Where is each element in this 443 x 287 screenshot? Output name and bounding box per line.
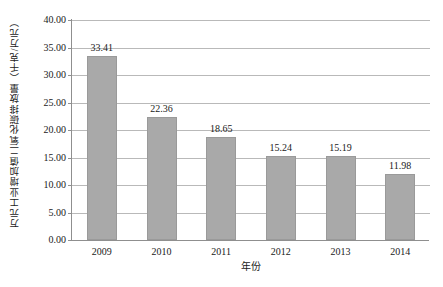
y-tick-label: 25.00: [44, 98, 67, 108]
x-tick-label: 2012: [271, 247, 291, 257]
bar: [266, 156, 296, 240]
x-axis-line: [71, 240, 429, 241]
bar-value-label: 18.65: [210, 124, 233, 134]
grid-line: [72, 185, 430, 186]
x-axis-title: 年份: [72, 262, 430, 272]
y-axis-tick-labels: 40.0035.0030.0025.0020.0015.0010.005.000…: [26, 0, 70, 245]
y-tick-mark: [68, 103, 72, 104]
y-tick-label: 0.00: [49, 235, 67, 245]
y-axis-title-text: 万元工业增加值二氧化碳排放量（千克/万元）: [11, 17, 21, 228]
y-tick-mark: [68, 75, 72, 76]
grid-line: [72, 75, 430, 76]
grid-line: [72, 130, 430, 131]
y-tick-label: 20.00: [44, 125, 67, 135]
y-tick-mark: [68, 213, 72, 214]
grid-line: [72, 103, 430, 104]
bar: [326, 156, 356, 240]
y-tick-mark: [68, 130, 72, 131]
x-tick-label: 2014: [390, 247, 410, 257]
bar: [206, 137, 236, 240]
y-tick-mark: [68, 158, 72, 159]
y-tick-mark: [68, 48, 72, 49]
x-tick-label: 2011: [211, 247, 231, 257]
y-tick-label: 40.00: [44, 15, 67, 25]
bar: [147, 117, 177, 240]
bar-chart: 万元工业增加值二氧化碳排放量（千克/万元） 40.0035.0030.0025.…: [0, 0, 443, 287]
y-tick-label: 10.00: [44, 180, 67, 190]
grid-line: [72, 20, 430, 21]
y-tick-label: 5.00: [49, 208, 67, 218]
grid-line: [72, 48, 430, 49]
y-tick-label: 35.00: [44, 43, 67, 53]
y-tick-mark: [68, 20, 72, 21]
x-tick-label: 2013: [331, 247, 351, 257]
y-tick-label: 15.00: [44, 153, 67, 163]
bar-value-label: 11.98: [389, 161, 411, 171]
bar: [87, 56, 117, 240]
bar-value-label: 33.41: [91, 43, 114, 53]
bar-value-label: 22.36: [150, 104, 173, 114]
x-tick-label: 2009: [92, 247, 112, 257]
bar-value-label: 15.19: [329, 143, 352, 153]
y-tick-mark: [68, 240, 72, 241]
bar-value-label: 15.24: [270, 143, 293, 153]
grid-line: [72, 158, 430, 159]
plot-area: 33.4122.3618.6515.2415.1911.98: [72, 20, 430, 240]
y-tick-label: 30.00: [44, 70, 67, 80]
bar: [385, 174, 415, 240]
y-tick-mark: [68, 185, 72, 186]
x-axis-tick-labels: 200920102011201220132014: [72, 244, 430, 260]
grid-line: [72, 213, 430, 214]
x-tick-label: 2010: [152, 247, 172, 257]
